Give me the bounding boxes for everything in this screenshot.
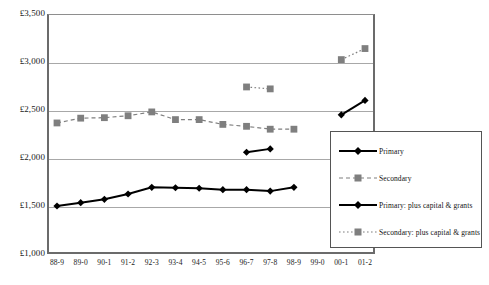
chart-legend[interactable]: PrimarySecondaryPrimary: plus capital & … (330, 131, 482, 248)
chart-container: £1,000£1,500£2,000£2,500£3,000£3,500 88-… (0, 0, 489, 285)
legend-key-icon (337, 171, 379, 185)
legend-key-icon (337, 225, 379, 239)
gridline (49, 111, 373, 112)
legend-key-icon (337, 198, 379, 212)
x-axis-tick-label: 01-2 (348, 258, 382, 268)
chart-title-cropped (34, 0, 464, 8)
legend-item-label: Secondary (379, 174, 412, 183)
legend-item-2[interactable]: Secondary (331, 165, 481, 191)
legend-item-label: Primary (379, 147, 404, 156)
y-axis-tick-label: £2,000 (1, 153, 45, 162)
y-axis-labels: £1,000£1,500£2,000£2,500£3,000£3,500 (0, 0, 45, 285)
gridline (49, 63, 373, 64)
legend-item-label: Secondary: plus capital & grants (379, 228, 480, 237)
y-axis-tick-label: £3,000 (1, 57, 45, 66)
y-axis-tick-label: £1,500 (1, 201, 45, 210)
legend-item-1[interactable]: Primary (331, 138, 481, 164)
legend-item-3[interactable]: Primary: plus capital & grants (331, 192, 481, 218)
y-axis-tick-label: £1,000 (1, 249, 45, 258)
gridline (49, 159, 373, 160)
legend-key-icon (337, 144, 379, 158)
x-axis-labels: 88-989-090-191-292-393-494-595-696-797-8… (47, 258, 375, 274)
gridline (49, 207, 373, 208)
plot-area (47, 14, 375, 254)
y-axis-tick-label: £2,500 (1, 105, 45, 114)
legend-item-4[interactable]: Secondary: plus capital & grants (331, 219, 481, 245)
legend-item-label: Primary: plus capital & grants (379, 201, 472, 210)
y-axis-tick-label: £3,500 (1, 9, 45, 18)
